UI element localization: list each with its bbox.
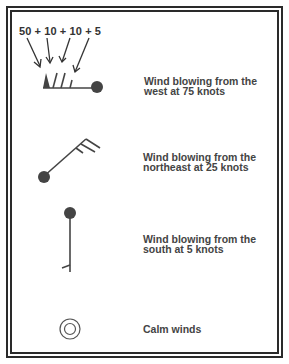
wind-barb-northeast-25-icon bbox=[38, 139, 100, 183]
label-calm: Calm winds bbox=[143, 324, 201, 334]
label-line: Calm winds bbox=[143, 324, 201, 334]
wind-barb-diagram bbox=[0, 0, 289, 364]
wind-barb-south-5-icon bbox=[62, 207, 76, 272]
formula-arrows-icon bbox=[27, 38, 89, 72]
label-west-75: Wind blowing from the west at 75 knots bbox=[144, 76, 257, 96]
label-line: west at 75 knots bbox=[144, 86, 257, 96]
label-line: south at 5 knots bbox=[143, 244, 256, 254]
wind-barb-west-75-icon bbox=[43, 73, 103, 93]
calm-circle-icon bbox=[60, 319, 80, 339]
label-line: northeast at 25 knots bbox=[143, 162, 256, 172]
label-northeast-25: Wind blowing from the northeast at 25 kn… bbox=[143, 152, 256, 172]
label-south-5: Wind blowing from the south at 5 knots bbox=[143, 234, 256, 254]
